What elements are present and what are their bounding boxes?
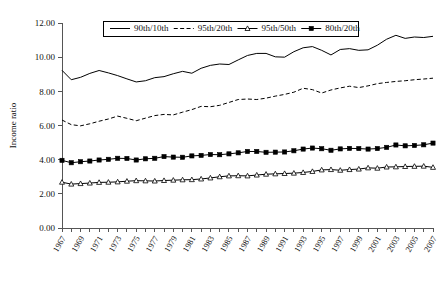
x-tick-label: 2007: [422, 234, 439, 254]
y-axis-title: Income ratio: [8, 102, 18, 148]
marker-square: [134, 158, 138, 162]
x-tick-label: 1999: [347, 234, 364, 254]
y-tick-label: 6.00: [39, 121, 55, 131]
marker-square: [338, 147, 342, 151]
x-tick-label: 1991: [273, 234, 290, 254]
marker-square: [245, 149, 249, 153]
marker-square: [171, 155, 175, 159]
marker-square: [60, 158, 64, 162]
marker-square: [329, 148, 333, 152]
y-tick-label: 12.00: [35, 18, 56, 28]
marker-square: [264, 150, 268, 154]
marker-square: [199, 153, 203, 157]
marker-square: [208, 152, 212, 156]
marker-square: [190, 154, 194, 158]
marker-square: [301, 147, 305, 151]
marker-square: [227, 152, 231, 156]
marker-square: [180, 155, 184, 159]
x-tick-label: 2003: [384, 234, 401, 254]
x-tick-label: 2005: [403, 234, 420, 254]
x-tick-label: 1997: [329, 234, 346, 254]
marker-square: [106, 157, 110, 161]
marker-square: [357, 146, 361, 150]
marker-square: [153, 156, 157, 160]
legend-marker-square: [309, 26, 313, 30]
marker-square: [78, 160, 82, 164]
y-tick-label: 2.00: [39, 189, 55, 199]
x-tick-label: 1975: [125, 234, 142, 254]
x-tick-label: 1987: [236, 234, 253, 254]
x-tick-label: 1967: [51, 234, 68, 254]
marker-square: [412, 143, 416, 147]
y-tick-label: 0.00: [39, 223, 55, 233]
marker-square: [431, 141, 435, 145]
marker-square: [255, 149, 259, 153]
marker-square: [403, 144, 407, 148]
series-line-90th-10th: [62, 35, 433, 82]
x-tick-label: 1977: [143, 234, 160, 254]
x-tick-label: 2001: [366, 234, 383, 254]
chart-canvas: 0.002.004.006.008.0010.0012.00Income rat…: [0, 0, 445, 288]
marker-square: [366, 147, 370, 151]
marker-square: [394, 143, 398, 147]
x-tick-label: 1971: [88, 234, 105, 254]
marker-square: [162, 154, 166, 158]
marker-triangle: [60, 180, 65, 185]
marker-square: [218, 153, 222, 157]
legend-label-95th-20th[interactable]: 95th/20th: [198, 23, 233, 33]
marker-square: [88, 159, 92, 163]
marker-square: [143, 157, 147, 161]
marker-square: [69, 161, 73, 165]
marker-square: [385, 145, 389, 149]
marker-square: [422, 143, 426, 147]
y-tick-label: 8.00: [39, 87, 55, 97]
x-tick-label: 1983: [199, 234, 216, 254]
marker-square: [273, 150, 277, 154]
marker-square: [292, 149, 296, 153]
series-line-95th-20th: [62, 78, 433, 126]
marker-square: [97, 158, 101, 162]
legend-label-95th-50th[interactable]: 95th/50th: [262, 23, 297, 33]
marker-square: [283, 150, 287, 154]
x-tick-label: 1979: [162, 234, 179, 254]
y-tick-label: 10.00: [35, 52, 56, 62]
marker-square: [116, 156, 120, 160]
x-tick-label: 1969: [69, 234, 86, 254]
x-tick-label: 1981: [180, 234, 197, 254]
marker-square: [375, 146, 379, 150]
x-tick-label: 1993: [292, 234, 309, 254]
x-tick-label: 1989: [255, 234, 272, 254]
marker-square: [320, 147, 324, 151]
legend-label-90th-10th[interactable]: 90th/10th: [134, 23, 169, 33]
marker-square: [125, 156, 129, 160]
income-ratio-chart: 0.002.004.006.008.0010.0012.00Income rat…: [0, 0, 445, 288]
marker-square: [236, 151, 240, 155]
marker-square: [347, 146, 351, 150]
x-tick-label: 1985: [218, 234, 235, 254]
marker-square: [310, 146, 314, 150]
x-tick-label: 1995: [310, 234, 327, 254]
x-tick-label: 1973: [106, 234, 123, 254]
legend-label-80th-20th[interactable]: 80th/20th: [325, 23, 360, 33]
y-tick-label: 4.00: [39, 155, 55, 165]
